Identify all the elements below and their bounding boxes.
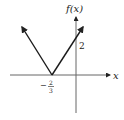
x-axis-label: x xyxy=(113,70,119,81)
graph-canvas: f(x) x 2 − 2 3 xyxy=(0,0,124,120)
x-tick-denominator: 3 xyxy=(49,87,53,94)
x-tick-numerator: 2 xyxy=(49,79,53,86)
x-tick-sign: − xyxy=(40,81,47,90)
graph-right-arm xyxy=(52,27,83,75)
graph-left-arm xyxy=(22,27,52,75)
y-tick-label-2: 2 xyxy=(79,41,85,51)
y-axis-label: f(x) xyxy=(65,3,83,14)
x-tick-label-neg-two-thirds: − 2 3 xyxy=(40,79,54,94)
